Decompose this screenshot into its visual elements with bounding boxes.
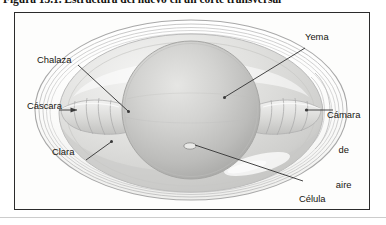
- label-chalaza: Chalaza: [37, 54, 71, 66]
- label-camara-line-2: de: [327, 144, 360, 156]
- label-cascara: Cáscara: [27, 100, 62, 112]
- germinal-disc: [184, 143, 196, 149]
- yolk-group: [122, 41, 260, 179]
- label-celula-germinal: Célula germinal: [299, 170, 335, 225]
- figure-caption-strip: Figura 13.1. Estructura del huevo en un …: [0, 0, 386, 10]
- label-camara-line-1: Cámara: [327, 109, 360, 121]
- figure-caption: Figura 13.1. Estructura del huevo en un …: [3, 0, 281, 5]
- label-celula-line-1: Célula: [299, 193, 335, 205]
- label-clara: Clara: [52, 146, 74, 158]
- yolk: [122, 41, 260, 179]
- label-yema: Yema: [305, 31, 329, 43]
